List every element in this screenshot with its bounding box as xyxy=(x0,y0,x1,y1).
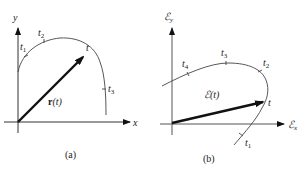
position-vector xyxy=(18,57,83,122)
label-t4: t4 xyxy=(182,58,189,71)
vector-label-e: ℰ(t) xyxy=(204,89,220,101)
ex-axis-label: ℰx xyxy=(288,119,298,132)
vector-label-r: r(t) xyxy=(48,96,63,108)
caption-a: (a) xyxy=(65,149,76,161)
label-t: t xyxy=(86,42,89,53)
panel-a: y x t1 t2 t t3 r(t) (a) xyxy=(4,12,138,161)
caption-b: (b) xyxy=(203,153,215,165)
x-axis-label: x xyxy=(132,117,138,128)
y-axis-label: y xyxy=(12,12,18,23)
ey-axis-label: ℰy xyxy=(164,11,174,24)
label-t2: t2 xyxy=(38,27,45,40)
panel-b: ℰy ℰx t4 t3 t2 t t1 ℰ(t) (b) xyxy=(160,11,298,165)
label-t2: t2 xyxy=(263,57,270,70)
label-t1: t1 xyxy=(245,137,252,150)
label-t: t xyxy=(268,97,271,108)
label-t3: t3 xyxy=(108,83,115,96)
diagram-canvas: y x t1 t2 t t3 r(t) (a) ℰy xyxy=(0,0,306,171)
field-vector xyxy=(172,102,263,123)
label-t1: t1 xyxy=(20,41,27,54)
label-t3: t3 xyxy=(221,47,228,60)
